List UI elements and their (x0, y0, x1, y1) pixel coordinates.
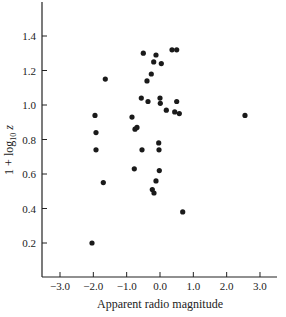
data-point (141, 51, 146, 56)
data-point (172, 109, 177, 114)
x-tick-label: 0.0 (153, 280, 167, 292)
data-point (174, 47, 179, 52)
y-axis-title: 1 + log10 z (2, 125, 18, 175)
y-tick-label: 1.2 (22, 65, 36, 77)
y-ticks: 0.20.40.60.81.01.21.4 (22, 30, 47, 249)
data-point (153, 52, 158, 57)
x-tick-label: 2.0 (220, 280, 234, 292)
y-axis-title-subscript: 10 (9, 133, 18, 141)
data-point (151, 190, 156, 195)
data-point (145, 99, 150, 104)
data-point (139, 147, 144, 152)
data-point (139, 96, 144, 101)
x-tick-label: −1.0 (117, 280, 137, 292)
data-point (144, 78, 149, 83)
data-point (151, 59, 156, 64)
data-point (93, 147, 98, 152)
data-point (157, 168, 162, 173)
y-tick-label: 0.2 (22, 237, 36, 249)
data-point (103, 77, 108, 82)
y-axis-title-variable: z (2, 125, 16, 133)
data-point (156, 140, 161, 145)
data-points (89, 47, 247, 245)
x-tick-label: −2.0 (83, 280, 103, 292)
x-axis-title: Apparent radio magnitude (97, 297, 223, 311)
data-point (89, 240, 94, 245)
y-axis-title-main: 1 + log (2, 141, 16, 175)
y-tick-label: 1.4 (22, 30, 36, 42)
y-tick-label: 1.0 (22, 99, 36, 111)
data-point (169, 47, 174, 52)
data-point (159, 61, 164, 66)
data-point (158, 101, 163, 106)
data-point (149, 71, 154, 76)
x-tick-label: 1.0 (186, 280, 200, 292)
axes: −3.0−2.0−1.00.01.02.03.0 0.20.40.60.81.0… (22, 2, 277, 292)
scatter-chart: −3.0−2.0−1.00.01.02.03.0 0.20.40.60.81.0… (0, 0, 286, 317)
data-point (180, 209, 185, 214)
data-point (93, 130, 98, 135)
data-point (157, 96, 162, 101)
data-point (164, 108, 169, 113)
data-point (242, 113, 247, 118)
data-point (132, 166, 137, 171)
y-tick-label: 0.8 (22, 134, 36, 146)
data-point (177, 111, 182, 116)
x-tick-label: 3.0 (253, 280, 267, 292)
data-point (153, 178, 158, 183)
data-point (101, 180, 106, 185)
data-point (134, 125, 139, 130)
data-point (129, 115, 134, 120)
data-point (174, 99, 179, 104)
data-point (92, 113, 97, 118)
data-point (156, 147, 161, 152)
y-tick-label: 0.4 (22, 203, 36, 215)
y-tick-label: 0.6 (22, 168, 36, 180)
x-tick-label: −3.0 (50, 280, 70, 292)
x-ticks: −3.0−2.0−1.00.01.02.03.0 (50, 272, 267, 292)
